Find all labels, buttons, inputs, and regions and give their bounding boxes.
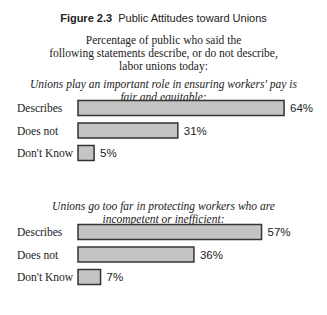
bar	[78, 225, 262, 240]
value-label: 7%	[107, 271, 124, 283]
category-label: Describes	[17, 102, 63, 114]
bar	[78, 270, 101, 285]
value-label: 5%	[100, 147, 117, 159]
category-label: Does not	[17, 249, 59, 261]
bar-charts: Describes64%Does not31%Don't Know5%Descr…	[0, 0, 327, 315]
category-label: Don't Know	[17, 271, 74, 283]
category-label: Describes	[17, 226, 63, 238]
value-label: 36%	[200, 249, 223, 261]
value-label: 31%	[184, 125, 207, 137]
value-label: 57%	[268, 226, 291, 238]
category-label: Does not	[17, 125, 59, 137]
value-label: 64%	[290, 102, 313, 114]
bar	[78, 101, 284, 116]
bar	[78, 146, 94, 161]
bar	[78, 247, 194, 262]
bar	[78, 123, 178, 138]
category-label: Don't Know	[17, 147, 74, 159]
